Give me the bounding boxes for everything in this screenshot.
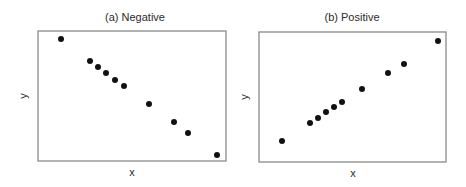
data-point — [339, 99, 345, 105]
data-point — [171, 119, 177, 125]
data-point — [121, 83, 127, 89]
data-point — [103, 70, 109, 76]
data-points — [58, 36, 220, 158]
x-axis-label: x — [350, 167, 356, 179]
scatter-figure: (a) Negative x y (b) Positive x y — [0, 0, 466, 187]
data-points — [279, 38, 441, 144]
panel-negative: (a) Negative x y — [17, 11, 226, 178]
panel-title: (b) Positive — [324, 11, 379, 23]
x-axis-label: x — [129, 166, 135, 178]
data-point — [146, 101, 152, 107]
data-point — [112, 77, 118, 83]
plot-frame — [259, 32, 446, 162]
data-point — [385, 70, 391, 76]
data-point — [307, 120, 313, 126]
data-point — [401, 61, 407, 67]
data-point — [435, 38, 441, 44]
data-point — [185, 130, 191, 136]
data-point — [214, 152, 220, 158]
y-axis-label: y — [17, 93, 29, 99]
data-point — [87, 58, 93, 64]
data-point — [279, 138, 285, 144]
data-point — [323, 109, 329, 115]
data-point — [315, 115, 321, 121]
panel-title: (a) Negative — [105, 11, 165, 23]
y-axis-label: y — [238, 94, 250, 100]
data-point — [95, 64, 101, 70]
plot-frame — [38, 31, 226, 161]
data-point — [58, 36, 64, 42]
data-point — [359, 86, 365, 92]
panel-positive: (b) Positive x y — [238, 11, 446, 179]
data-point — [331, 104, 337, 110]
